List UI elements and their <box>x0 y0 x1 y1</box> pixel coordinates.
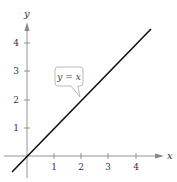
y-tick-label: 1 <box>13 123 19 133</box>
y-axis-label: y <box>23 8 30 19</box>
y-tick-label: 2 <box>13 95 19 105</box>
y-axis-arrow-icon <box>25 22 30 31</box>
callout-label: y = x <box>56 72 80 82</box>
x-tick-label: 1 <box>51 162 57 172</box>
x-axis-label: x <box>167 150 173 161</box>
y-tick-label: 3 <box>13 66 19 76</box>
x-tick-label: 2 <box>78 162 84 172</box>
callout-y-equals-x: y = x <box>55 67 83 97</box>
y-tick-label: 4 <box>13 38 19 48</box>
x-tick-label: 3 <box>105 162 111 172</box>
line-y-equals-x <box>12 29 151 172</box>
x-tick-label: 4 <box>133 162 139 172</box>
chart-canvas: 1 2 3 4 1 2 3 4 x y y = x <box>0 0 177 182</box>
x-axis-arrow-icon <box>155 154 164 159</box>
